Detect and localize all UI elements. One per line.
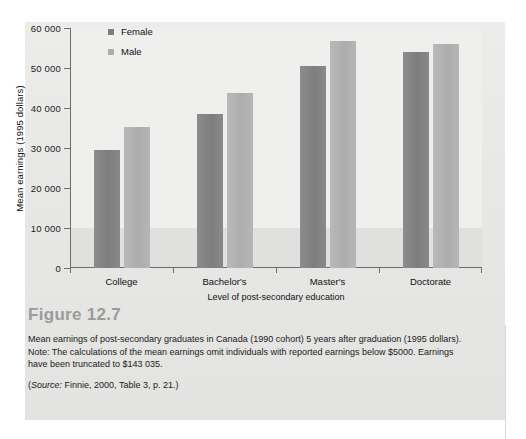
bar-bachelors-male (227, 93, 253, 268)
legend-label-male: Male (121, 46, 142, 57)
y-axis-title: Mean earnings (1995 dollars) (12, 28, 26, 268)
y-tick-label-1: 10 000 (31, 223, 61, 234)
y-tick-label-5: 50 000 (31, 63, 61, 74)
x-tick-0 (70, 268, 71, 273)
y-tick-label-2: 20 000 (31, 183, 61, 194)
page-edge (505, 325, 526, 439)
y-tick-5 (64, 68, 70, 69)
y-tick-label-3: 30 000 (31, 143, 61, 154)
x-tick-2 (276, 268, 277, 273)
chart-legend: Female Male (108, 26, 153, 66)
source-citation: Finnie, 2000, Table 3, p. 21.) (62, 380, 178, 390)
x-tick-1 (173, 268, 174, 273)
x-tick-3 (379, 268, 380, 273)
bar-doctorate-female (403, 52, 429, 268)
bar-masters-female (300, 66, 326, 268)
bar-doctorate-male (433, 44, 459, 268)
x-category-label-2: Master's (310, 276, 346, 287)
bar-college-male (124, 127, 150, 268)
bar-masters-male (330, 41, 356, 268)
bar-college-female (94, 150, 120, 268)
y-tick-2 (64, 188, 70, 189)
legend-item-male: Male (108, 46, 153, 57)
y-tick-3 (64, 148, 70, 149)
bar-bachelors-female (197, 114, 223, 268)
x-category-label-1: Bachelor's (202, 276, 246, 287)
legend-item-female: Female (108, 26, 153, 37)
legend-swatch-female-icon (108, 29, 114, 35)
y-tick-4 (64, 108, 70, 109)
legend-label-female: Female (121, 26, 153, 37)
legend-swatch-male-icon (108, 49, 114, 55)
source-label: Source: (31, 380, 62, 390)
figure-caption: Mean earnings of post-secondary graduate… (28, 333, 468, 371)
y-tick-6 (64, 28, 70, 29)
y-axis-title-label: Mean earnings (1995 dollars) (14, 85, 25, 211)
x-category-label-3: Doctorate (410, 276, 451, 287)
y-tick-label-6: 60 000 (31, 23, 61, 34)
figure-number: Figure 12.7 (28, 305, 121, 325)
x-category-label-0: College (105, 276, 137, 287)
figure-source: (Source: Finnie, 2000, Table 3, p. 21.) (28, 380, 468, 390)
y-tick-label-4: 40 000 (31, 103, 61, 114)
y-tick-1 (64, 228, 70, 229)
y-tick-label-0: 0 (56, 263, 61, 274)
y-axis-line (70, 28, 71, 268)
x-tick-4 (481, 268, 482, 273)
x-axis-title: Level of post-secondary education (70, 292, 482, 302)
figure-page: Mean earnings (1995 dollars) 010 00020 0… (0, 0, 526, 439)
